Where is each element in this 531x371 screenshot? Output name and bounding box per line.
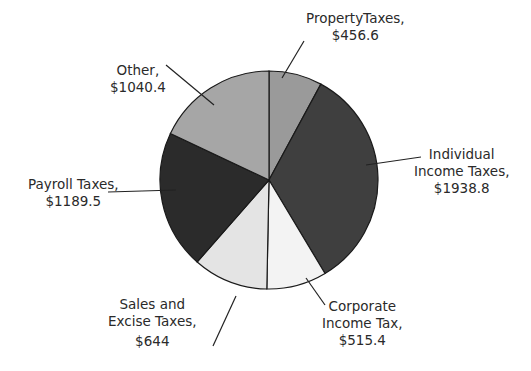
label-other: Other, $1040.4: [110, 62, 166, 96]
label-name: Sales and: [108, 296, 197, 313]
label-name-2: Income Tax,: [322, 315, 403, 332]
label-corporate-income-tax: Corporate Income Tax, $515.4: [322, 298, 403, 349]
label-sales-excise-taxes: Sales and Excise Taxes, $644: [108, 296, 197, 350]
label-name-2: Income Taxes,: [414, 163, 509, 180]
label-value: $515.4: [322, 332, 403, 349]
leader-line-sales: [213, 296, 236, 346]
leader-line-property: [282, 41, 304, 78]
label-payroll-taxes: Payroll Taxes, $1189.5: [28, 176, 119, 210]
pie-slices: [160, 71, 378, 289]
leader-line-other: [166, 65, 214, 105]
label-property-taxes: PropertyTaxes, $456.6: [306, 10, 405, 44]
label-name: Other,: [110, 62, 166, 79]
label-name-2: Excise Taxes,: [108, 313, 197, 330]
label-name: Corporate: [322, 298, 403, 315]
label-value: $1189.5: [28, 193, 119, 210]
label-value: $1040.4: [110, 79, 166, 96]
label-individual-income-taxes: Individual Income Taxes, $1938.8: [414, 146, 509, 197]
label-value: $1938.8: [414, 180, 509, 197]
label-name: PropertyTaxes,: [306, 10, 405, 27]
label-name: Payroll Taxes,: [28, 176, 119, 193]
label-name: Individual: [414, 146, 509, 163]
label-value: $644: [108, 333, 197, 350]
label-value: $456.6: [306, 27, 405, 44]
